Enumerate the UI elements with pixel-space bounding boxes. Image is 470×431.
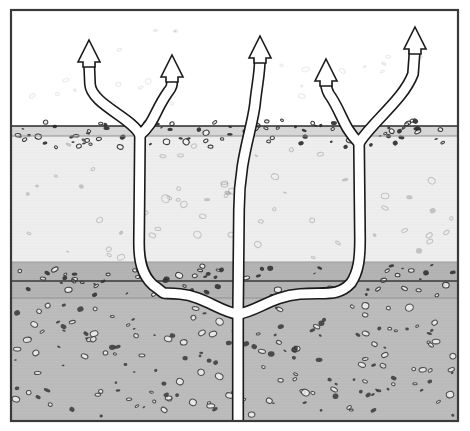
clast-light [415,325,419,328]
clast-light [449,353,456,360]
clast-light [126,398,131,401]
clast-light [40,277,46,281]
clast-light [258,220,263,223]
clast-light [18,269,22,273]
clast-light [310,218,315,223]
clast-light [438,127,443,132]
clast-light [220,137,224,140]
clast-light [160,154,166,158]
clast-light [432,339,440,344]
clast-light [180,339,187,345]
clast-light [413,383,417,385]
clast-light [80,281,84,283]
clast-light [117,48,122,52]
clast-light [176,198,180,201]
clast-light [149,391,153,393]
clast-light [412,367,416,370]
clast-light [256,333,260,335]
clast-light [110,315,114,317]
clast-light [272,207,276,211]
clast-light [26,390,31,395]
clast-light [267,140,271,143]
cross-section-diagram [0,0,470,431]
clast-light [394,330,397,332]
clast-light [385,55,390,58]
clast-light [163,139,170,145]
clast-light [442,282,449,288]
clast-light [177,154,183,157]
clast-light [408,269,414,272]
clast-light [391,383,395,386]
clast-light [43,120,48,125]
clast-light [96,137,102,141]
clast-light [331,127,335,131]
clast-light [98,389,103,394]
clast-light [221,181,228,185]
clast-light [155,227,161,231]
clast-light [139,354,145,357]
clast-light [310,391,315,395]
clast-light [264,120,269,123]
clast-light [106,273,110,276]
clast-light [103,351,108,355]
clast-light [55,92,59,96]
clast-light [449,216,453,220]
clast-light [115,82,121,86]
clast-light [208,145,213,148]
clast-light [248,412,255,418]
clast-light [89,143,92,146]
clast-light [197,269,202,272]
figure-canvas [0,0,470,431]
clast-light [361,302,369,310]
clast-light [416,288,422,292]
clast-light [34,371,41,374]
clast-light [317,152,324,157]
clast-light [152,400,156,403]
clast-light [169,102,173,106]
clast-light [388,327,392,330]
clast-light [197,369,205,376]
clast-light [14,347,21,351]
clast-light [349,409,353,411]
clast-light [362,312,368,317]
clast-light [54,175,58,178]
clast-light [419,367,427,372]
clast-light [207,404,215,408]
clast-light [35,134,42,140]
clast-light [93,307,98,312]
clast-light [386,306,390,310]
clast-light [192,274,197,278]
clast-light [278,378,283,382]
clast-light [64,287,72,293]
clast-light [395,273,400,277]
clast-light [199,214,206,219]
clast-light [381,193,389,199]
clast-dark [331,121,337,125]
clast-dark [104,127,110,131]
clast-light [113,353,117,356]
clast-light [362,357,368,360]
clast-light [15,133,21,137]
clast-light [98,122,102,125]
